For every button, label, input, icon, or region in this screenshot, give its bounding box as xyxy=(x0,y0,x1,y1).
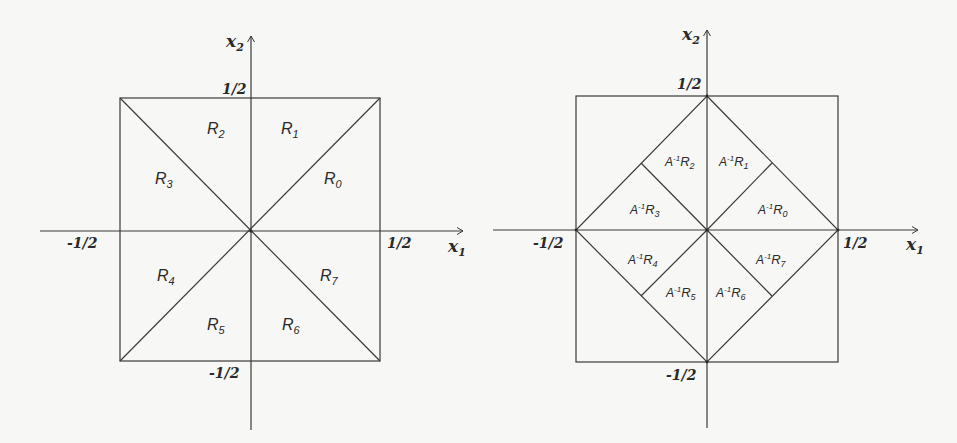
right-region-A-inv-R4: A-1R4 xyxy=(627,252,658,269)
left-x-axis-label: x1 xyxy=(447,236,466,259)
right-region-A-inv-R0: A-1R0 xyxy=(757,202,788,219)
right-y-axis-label: x2 xyxy=(681,24,700,47)
right-x-axis-label: x1 xyxy=(905,234,924,257)
left-region-R5: R5 xyxy=(207,316,226,336)
left-region-R0: R0 xyxy=(324,170,343,190)
right-tick-left: -1/2 xyxy=(533,235,564,251)
left-labels: x2 x1 1/2 -1/2 -1/2 1/2 R0 R1 R2 R3 R4 R… xyxy=(67,31,466,381)
right-vertex-left xyxy=(575,229,578,232)
left-region-R1: R1 xyxy=(281,120,299,140)
right-region-A-inv-R2: A-1R2 xyxy=(664,154,695,171)
right-vertex-top xyxy=(706,95,709,98)
right-labels: x2 x1 1/2 -1/2 -1/2 1/2 A-1R0 A-1R1 A-1R… xyxy=(533,24,924,383)
right-panel xyxy=(493,30,918,428)
left-origin xyxy=(249,229,252,232)
left-region-R2: R2 xyxy=(207,120,225,140)
left-region-R7: R7 xyxy=(320,267,339,287)
right-region-A-inv-R1: A-1R1 xyxy=(718,154,749,171)
diagram-svg: x2 x1 1/2 -1/2 -1/2 1/2 R0 R1 R2 R3 R4 R… xyxy=(0,0,957,443)
right-origin xyxy=(705,228,708,231)
left-tick-right: 1/2 xyxy=(387,235,412,251)
left-region-R6: R6 xyxy=(282,316,301,336)
right-segment-ne xyxy=(707,163,772,230)
right-region-A-inv-R3: A-1R3 xyxy=(629,202,660,219)
right-tick-top: 1/2 xyxy=(677,76,702,92)
left-tick-bottom: -1/2 xyxy=(209,365,240,381)
left-y-axis-label: x2 xyxy=(225,31,244,54)
left-region-R3: R3 xyxy=(155,170,174,190)
right-vertex-right xyxy=(837,229,840,232)
right-vertex-bottom xyxy=(706,361,709,364)
right-tick-bottom: -1/2 xyxy=(666,367,697,383)
right-region-A-inv-R7: A-1R7 xyxy=(755,252,787,269)
left-panel xyxy=(40,36,463,430)
right-region-A-inv-R5: A-1R5 xyxy=(665,285,697,302)
right-tick-right: 1/2 xyxy=(843,235,868,251)
left-tick-left: -1/2 xyxy=(67,235,98,251)
figure-canvas: x2 x1 1/2 -1/2 -1/2 1/2 R0 R1 R2 R3 R4 R… xyxy=(0,0,957,443)
right-region-A-inv-R6: A-1R6 xyxy=(715,285,746,302)
right-segment-nw xyxy=(641,163,707,230)
left-region-R4: R4 xyxy=(157,267,175,287)
left-tick-top: 1/2 xyxy=(222,81,247,97)
